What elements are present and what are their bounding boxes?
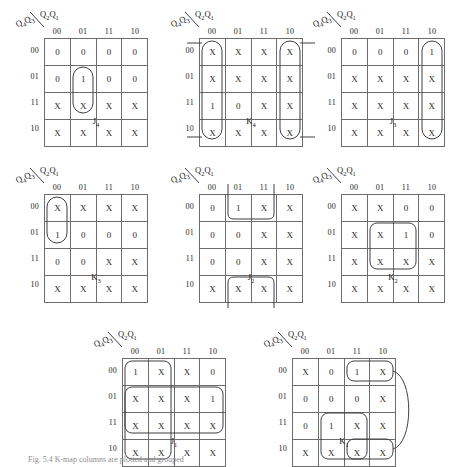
kmap-cell[interactable]: X (367, 66, 393, 93)
kmap-cell[interactable]: 1 (393, 222, 419, 249)
kmap-k2: Q4Q3Q2Q10001111000011110XX00XX10XXXXXXXX… (311, 164, 445, 298)
kmap-cell[interactable]: 1 (123, 359, 149, 386)
kmap-cell[interactable]: X (200, 66, 226, 93)
kmap-cell[interactable]: X (277, 66, 303, 93)
column-header-1: 01 (367, 183, 393, 192)
kmap-cell[interactable]: X (251, 195, 277, 222)
kmap-row: XX10 (342, 222, 445, 249)
kmap-row: 01XX (200, 195, 303, 222)
kmap-cell[interactable]: 1 (225, 195, 251, 222)
kmap-cell[interactable]: 1 (419, 39, 445, 66)
kmap-cell[interactable]: X (251, 39, 277, 66)
kmap-cell[interactable]: X (251, 222, 277, 249)
kmap-cell[interactable]: X (251, 66, 277, 93)
kmap-cell[interactable]: 0 (70, 39, 96, 66)
kmap-cell[interactable]: 0 (293, 386, 319, 413)
kmap-cell[interactable]: 0 (344, 386, 370, 413)
kmap-cell[interactable]: X (370, 359, 396, 386)
kmap-row: XXXX (342, 66, 445, 93)
kmap-cell[interactable]: X (277, 39, 303, 66)
kmap-j1: Q4Q3Q2Q100011110000111101XX0XXX1XXXXXXXX… (92, 328, 226, 462)
kmap-header: Q4Q3Q2Q100011110 (14, 164, 148, 194)
kmap-cell[interactable]: X (367, 222, 393, 249)
row-header-2: 11 (311, 90, 341, 116)
kmap-cell[interactable]: 0 (200, 195, 226, 222)
kmap-cell[interactable]: 0 (122, 66, 148, 93)
kmap-cell[interactable]: 0 (419, 195, 445, 222)
kmap-grid: 01XX00XX00XXXXXX (199, 194, 303, 303)
kmap-cell[interactable]: 1 (200, 386, 226, 413)
kmap-cell[interactable]: 1 (344, 359, 370, 386)
kmap-cell[interactable]: 0 (122, 222, 148, 249)
column-headers: 00011110 (199, 183, 303, 192)
kmap-cell[interactable]: X (277, 222, 303, 249)
kmap-cell[interactable]: 0 (45, 39, 71, 66)
kmap-cell[interactable]: X (370, 386, 396, 413)
column-header-2: 11 (393, 27, 419, 36)
kmap-cell[interactable]: X (70, 195, 96, 222)
kmap-cell[interactable]: 0 (318, 359, 344, 386)
kmap-cell[interactable]: 1 (70, 66, 96, 93)
kmap-row: 0000 (45, 39, 148, 66)
kmap-j4: Q4Q3Q2Q1000111100001111000000100XXXXXXXX… (14, 8, 148, 142)
kmap-cell[interactable]: X (123, 386, 149, 413)
kmap-cell[interactable]: X (122, 195, 148, 222)
kmap-cell[interactable]: X (96, 195, 122, 222)
column-header-1: 01 (318, 347, 344, 356)
kmap-cell[interactable]: X (393, 66, 419, 93)
kmap-cell[interactable]: 0 (393, 39, 419, 66)
kmap-cell[interactable]: 0 (419, 222, 445, 249)
kmap-cell[interactable]: 0 (367, 39, 393, 66)
kmap-cell[interactable]: X (419, 66, 445, 93)
kmap-cell[interactable]: X (342, 195, 368, 222)
kmap-row: 000X (293, 386, 396, 413)
kmap-cell[interactable]: X (148, 359, 174, 386)
row-header-3: 10 (14, 272, 44, 298)
row-header-1: 01 (14, 64, 44, 90)
kmap-cell[interactable]: 0 (318, 386, 344, 413)
row-header-0: 00 (169, 38, 199, 64)
column-header-0: 00 (292, 347, 318, 356)
kmap-cell[interactable]: 0 (225, 222, 251, 249)
kmap-cell[interactable]: 0 (45, 66, 71, 93)
kmap-cell[interactable]: X (277, 195, 303, 222)
column-header-2: 11 (251, 183, 277, 192)
column-header-1: 01 (225, 183, 251, 192)
kmap-label: J4 (44, 116, 148, 128)
kmap-cell[interactable]: 1 (45, 222, 71, 249)
column-header-2: 11 (96, 183, 122, 192)
kmap-cell[interactable]: 0 (96, 66, 122, 93)
kmap-cell[interactable]: X (293, 359, 319, 386)
kmap-label: K1 (292, 436, 396, 448)
row-header-2: 11 (14, 246, 44, 272)
kmap-grid: 00000100XXXXXXXX (44, 38, 148, 147)
column-header-2: 11 (174, 347, 200, 356)
row-header-0: 00 (169, 194, 199, 220)
kmap-cell[interactable]: 0 (96, 39, 122, 66)
kmap-cell[interactable]: X (342, 222, 368, 249)
kmap-cell[interactable]: X (174, 386, 200, 413)
kmap-cell[interactable]: X (367, 195, 393, 222)
kmap-cell[interactable]: X (200, 39, 226, 66)
kmap-cell[interactable]: 0 (393, 195, 419, 222)
column-header-3: 10 (122, 27, 148, 36)
kmap-label: J2 (199, 272, 303, 284)
kmap-cell[interactable]: 0 (200, 359, 226, 386)
col-variable-label: Q2Q1 (40, 9, 59, 21)
row-header-3: 10 (311, 116, 341, 142)
kmap-cell[interactable]: X (225, 66, 251, 93)
kmap-cell[interactable]: X (148, 386, 174, 413)
kmap-cell[interactable]: X (174, 359, 200, 386)
kmap-j2: Q4Q3Q2Q1000111100001111001XX00XX00XXXXXX… (169, 164, 303, 298)
kmap-cell[interactable]: X (342, 66, 368, 93)
column-header-1: 01 (148, 347, 174, 356)
kmap-cell[interactable]: X (225, 39, 251, 66)
kmap-cell[interactable]: 0 (200, 222, 226, 249)
kmap-cell[interactable]: 0 (70, 222, 96, 249)
kmap-cell[interactable]: 0 (96, 222, 122, 249)
kmap-row: XXXX (200, 39, 303, 66)
kmap-cell[interactable]: 0 (122, 39, 148, 66)
kmap-cell[interactable]: 0 (342, 39, 368, 66)
row-header-1: 01 (169, 220, 199, 246)
kmap-cell[interactable]: X (45, 195, 71, 222)
